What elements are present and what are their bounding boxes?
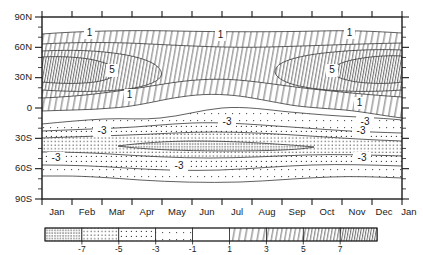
colorbar-tick-label: 3 (264, 244, 269, 254)
x-tick-label: Apr (140, 206, 155, 217)
x-tick-label: Jun (199, 206, 214, 217)
colorbar-cell (156, 228, 193, 241)
y-axis-ticks-right (402, 17, 409, 199)
colorbar-tick-label: -5 (115, 244, 123, 254)
colorbar-cell (119, 228, 156, 241)
colorbar-labels: -7 -5 -3 -1 1 3 5 7 (78, 244, 343, 254)
x-tick-label: Dec (376, 206, 393, 217)
contour-label: -3 (223, 116, 232, 127)
y-tick-label: 90S (15, 193, 32, 204)
x-tick-label: May (168, 206, 186, 217)
y-axis-labels: 90N 60N 30N 0 30S 60S 90S (15, 11, 33, 204)
colorbar-cell (193, 228, 230, 241)
contour-label: -3 (361, 116, 370, 127)
colorbar-cell (340, 228, 377, 241)
colorbar-tick-label: -7 (78, 244, 86, 254)
x-tick-label: Feb (79, 206, 95, 217)
contour-label: 1 (218, 29, 224, 40)
x-axis-ticks (42, 199, 402, 205)
colorbar-tick-label: 1 (227, 244, 232, 254)
x-tick-label: Aug (259, 206, 276, 217)
x-tick-label: Oct (320, 206, 335, 217)
contour-label: -3 (98, 125, 107, 136)
contour-label: 5 (329, 64, 335, 75)
plot-area (42, 17, 402, 199)
contour-label: -3 (358, 152, 367, 163)
colorbar-tick-label: -1 (189, 244, 197, 254)
contour-label: 1 (127, 89, 133, 100)
x-tick-label: Nov (349, 206, 366, 217)
colorbar-tick-label: -3 (152, 244, 160, 254)
colorbar-cell (45, 228, 82, 241)
x-tick-label: Mar (109, 206, 125, 217)
x-tick-label: Sep (289, 206, 306, 217)
x-tick-label: Jul (231, 206, 243, 217)
colorbar: -7 -5 -3 -1 1 3 5 7 (45, 228, 377, 254)
chart-svg: 1 1 1 5 5 1 1 -3 -3 -3 -3 -3 -3 -3 (0, 0, 423, 255)
y-tick-label: 30N (15, 71, 33, 82)
y-tick-label: 60S (15, 162, 32, 173)
x-axis-labels: Jan Feb Mar Apr May Jun Jul Aug Sep Oct … (49, 206, 416, 217)
y-tick-label: 90N (15, 11, 33, 22)
colorbar-cell (230, 228, 267, 241)
contour-label: 1 (87, 27, 93, 38)
contour-label: -3 (175, 160, 184, 171)
y-tick-label: 0 (27, 102, 32, 113)
colorbar-tick-label: 7 (338, 244, 343, 254)
y-axis-ticks (35, 17, 42, 199)
colorbar-cell (82, 228, 119, 241)
y-tick-label: 60N (15, 41, 33, 52)
contour-label: 5 (109, 64, 115, 75)
colorbar-tick-label: 5 (301, 244, 306, 254)
x-tick-label: Jan (401, 206, 416, 217)
contour-label: 1 (347, 27, 353, 38)
contour-plot-figure: 1 1 1 5 5 1 1 -3 -3 -3 -3 -3 -3 -3 (0, 0, 423, 255)
x-axis-ticks-top (42, 11, 402, 17)
colorbar-cell (303, 228, 340, 241)
colorbar-cell (266, 228, 303, 241)
y-tick-label: 30S (15, 132, 32, 143)
x-tick-label: Jan (49, 206, 64, 217)
contour-label: -3 (52, 152, 61, 163)
contour-label: 1 (357, 97, 363, 108)
